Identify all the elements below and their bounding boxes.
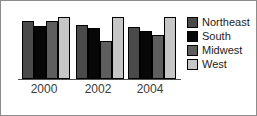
- legend-item-northeast: Northeast: [187, 15, 255, 29]
- bar-chart-figure: 2000 2002 2004 Northeast South Midwest W…: [0, 0, 257, 116]
- west-swatch-icon: [187, 59, 198, 70]
- chart-legend: Northeast South Midwest West: [187, 15, 255, 71]
- legend-item-west: West: [187, 57, 255, 71]
- legend-label-south: South: [202, 31, 231, 42]
- plot-area: 2000 2002 2004: [18, 12, 181, 90]
- legend-label-northeast: Northeast: [202, 17, 250, 28]
- midwest-swatch-icon: [187, 45, 198, 56]
- bar-group-2002: [76, 12, 124, 79]
- bar-2004-west: [164, 17, 176, 79]
- legend-item-south: South: [187, 29, 255, 43]
- bar-2004-northeast: [128, 27, 140, 79]
- x-axis-tick-2004: 2004: [124, 82, 176, 96]
- northeast-swatch-icon: [187, 17, 198, 28]
- x-axis-line: [18, 79, 181, 80]
- x-axis-tick-2002: 2002: [72, 82, 124, 96]
- bar-2002-south: [88, 28, 100, 79]
- bar-2002-west: [112, 17, 124, 79]
- south-swatch-icon: [187, 31, 198, 42]
- bar-2000-west: [58, 17, 70, 79]
- legend-label-west: West: [202, 59, 227, 70]
- bar-2000-northeast: [22, 21, 34, 79]
- bar-2000-midwest: [46, 21, 58, 79]
- bar-2002-midwest: [100, 41, 112, 79]
- bar-2002-northeast: [76, 25, 88, 79]
- bar-2000-south: [34, 26, 46, 79]
- legend-label-midwest: Midwest: [202, 45, 242, 56]
- x-axis-tick-2000: 2000: [18, 82, 70, 96]
- legend-item-midwest: Midwest: [187, 43, 255, 57]
- bar-group-2004: [128, 12, 176, 79]
- bar-group-2000: [22, 12, 70, 79]
- bar-2004-south: [140, 31, 152, 79]
- bar-2004-midwest: [152, 35, 164, 79]
